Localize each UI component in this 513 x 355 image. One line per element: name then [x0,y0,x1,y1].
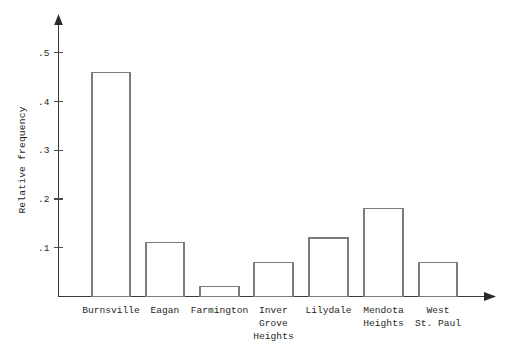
x-axis-category-labels: BurnsvilleEaganFarmingtonInverGroveHeigh… [82,305,461,342]
x-axis-category-label: Burnsville [82,305,140,316]
x-axis-category-label: Heights [363,318,403,329]
x-axis-arrow-icon [484,292,496,301]
y-axis-tick-label: .3 [38,145,50,156]
y-axis-title-group: Relative frequency [17,106,28,213]
x-axis-category-label: Heights [253,331,293,342]
bar [200,287,239,297]
y-axis-tick-label: .2 [38,194,50,205]
y-axis-tick-label: .1 [38,243,50,254]
x-axis-category-label: West [426,305,449,316]
y-axis-tick-label: .4 [38,97,50,108]
x-axis-category-label: Grove [259,318,288,329]
chart-canvas: .1.2.3.4.5 BurnsvilleEaganFarmingtonInve… [0,0,513,355]
bar [146,243,184,297]
bar [364,209,403,297]
y-axis-tick-label: .5 [38,48,50,59]
bar-chart: .1.2.3.4.5 BurnsvilleEaganFarmingtonInve… [0,0,513,355]
y-axis-ticks: .1.2.3.4.5 [38,48,63,254]
x-axis-category-label: Eagan [151,305,180,316]
bar [254,262,293,296]
bar [92,72,130,296]
bar [309,238,348,297]
x-axis-category-label: Inver [259,305,288,316]
x-axis-category-label: Mendota [363,305,404,316]
x-axis-category-label: Farmington [191,305,249,316]
bar [419,262,457,296]
y-axis-arrow-icon [54,14,63,25]
x-axis-category-label: Lilydale [305,305,351,316]
x-axis-category-label: St. Paul [415,318,461,329]
y-axis-title: Relative frequency [17,106,28,213]
bars [92,72,457,296]
